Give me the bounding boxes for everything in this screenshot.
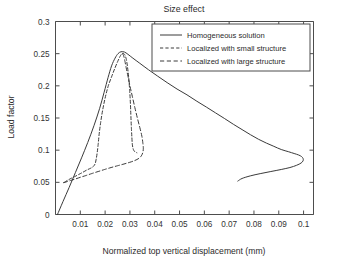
x-tick-label: 0.02	[97, 220, 113, 229]
x-tick-label: 0.01	[72, 220, 88, 229]
x-tick-label: 0.08	[246, 220, 262, 229]
x-tick-label: 0.07	[221, 220, 237, 229]
y-tick-label: 0.05	[34, 178, 50, 187]
x-tick-label: 0.1	[298, 220, 310, 229]
legend-label: Localized with large structure	[187, 57, 285, 66]
x-tick-label: 0.04	[147, 220, 163, 229]
size-effect-chart-figure: Size effect 0.010.020.030.040.050.060.07…	[0, 0, 337, 263]
chart-legend: Homogeneous solutionLocalized with small…	[152, 24, 310, 71]
y-tick-label: 0.1	[38, 146, 50, 155]
x-tick-label: 0.05	[172, 220, 188, 229]
x-tick-label: 0.09	[271, 220, 287, 229]
legend-label: Homogeneous solution	[187, 31, 265, 40]
chart-title: Size effect	[164, 4, 205, 14]
legend-label: Localized with small structure	[187, 44, 286, 53]
y-tick-label: 0.2	[38, 82, 50, 91]
chart-canvas: Size effect 0.010.020.030.040.050.060.07…	[0, 0, 337, 263]
x-tick-label: 0.06	[196, 220, 212, 229]
y-axis-title: Load factor	[6, 95, 16, 138]
y-tick-label: 0.15	[34, 114, 50, 123]
x-axis-title: Normalized top vertical displacement (mm…	[103, 246, 266, 256]
y-tick-label: 0.25	[34, 50, 50, 59]
x-tick-label: 0.03	[122, 220, 138, 229]
y-tick-label: 0	[45, 211, 50, 220]
y-tick-label: 0.3	[38, 18, 50, 27]
